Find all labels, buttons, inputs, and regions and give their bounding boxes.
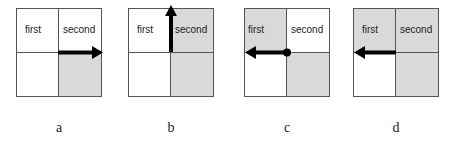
arrow-left-icon xyxy=(244,8,330,97)
arrow-up-icon xyxy=(128,8,214,97)
panel-c: first second xyxy=(244,8,330,97)
panel-d: first second xyxy=(353,8,439,97)
caption-c: c xyxy=(244,120,330,136)
caption-a: a xyxy=(16,120,102,136)
caption-b: b xyxy=(128,120,214,136)
panel-a: first second xyxy=(16,8,102,97)
arrow-right-icon xyxy=(16,8,102,97)
arrow-left-icon xyxy=(353,8,439,97)
caption-d: d xyxy=(353,120,439,136)
panel-b: first second xyxy=(128,8,214,97)
